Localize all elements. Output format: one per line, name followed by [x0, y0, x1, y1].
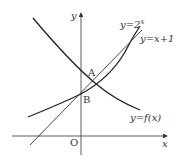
x-axis-label: x — [162, 138, 168, 149]
line-label: y=x+1 — [139, 33, 174, 44]
curve-f-label: y=f(x) — [129, 112, 161, 123]
line-x-plus-1 — [30, 30, 142, 145]
y-axis-label: y — [70, 10, 77, 21]
point-a-label: A — [87, 67, 96, 78]
origin-label: O — [70, 137, 78, 148]
point-b-label: B — [83, 94, 90, 105]
curve-exp-label: y=2x — [119, 18, 144, 30]
graph-diagram: y x O A B y=2x y=x+1 y=f(x) — [0, 0, 185, 166]
